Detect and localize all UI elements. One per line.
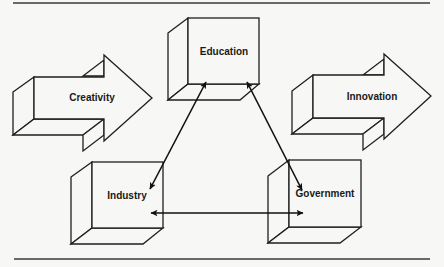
triple-helix-diagram: Creativity Innovation Education Industry… <box>0 0 444 267</box>
creativity-label: Creativity <box>69 92 115 103</box>
government-box: Government <box>268 160 361 243</box>
industry-box: Industry <box>71 162 163 244</box>
education-label: Education <box>200 46 248 57</box>
innovation-arrow: Innovation <box>292 54 431 150</box>
education-box: Education <box>168 18 259 100</box>
creativity-arrow: Creativity <box>13 55 152 151</box>
innovation-label: Innovation <box>347 91 398 102</box>
industry-label: Industry <box>107 190 147 201</box>
diagram-canvas: Creativity Innovation Education Industry… <box>0 0 444 267</box>
government-label: Government <box>296 188 356 199</box>
